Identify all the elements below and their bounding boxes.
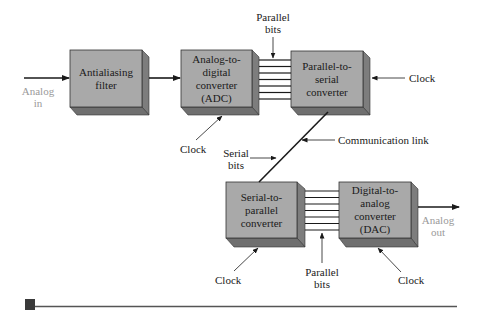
communication-link-line xyxy=(259,112,328,182)
dac-label: Digital-to- analog converter (DAC) xyxy=(339,182,411,238)
clock-p2s-label: Clock xyxy=(409,72,435,84)
adc-label: Analog-to- digital converter (ADC) xyxy=(181,50,252,107)
communication-link-label: Communication link xyxy=(338,134,429,146)
footer-square-marker xyxy=(25,299,35,310)
parallel-bits-top-label: Parallel bits xyxy=(253,11,293,35)
clock-dac-arrow xyxy=(378,248,401,272)
analog-in-label: Analog in xyxy=(20,85,56,109)
clock-adc-arrow xyxy=(196,116,222,140)
parallel-bus-bottom xyxy=(305,191,339,230)
serial-bits-label: Serial bits xyxy=(222,147,250,171)
clock-s2p-label: Clock xyxy=(215,274,241,286)
serial-to-parallel-label: Serial-to- parallel converter xyxy=(226,182,297,238)
clock-s2p-arrow xyxy=(234,248,258,271)
clock-dac-label: Clock xyxy=(398,274,424,286)
parallel-bus-top xyxy=(259,60,291,99)
antialiasing-filter-label: Antialiasing filter xyxy=(70,50,142,107)
analog-out-label: Analog out xyxy=(418,214,458,238)
clock-adc-label: Clock xyxy=(180,143,206,155)
parallel-bits-bottom-label: Parallel bits xyxy=(302,266,342,290)
parallel-to-serial-label: Parallel-to- serial converter xyxy=(291,51,363,107)
